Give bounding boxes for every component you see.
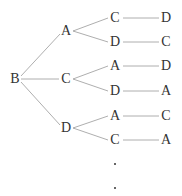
node-level3: A <box>161 133 171 147</box>
node-level2: C <box>110 133 119 147</box>
node-level2: D <box>110 35 120 49</box>
node-level3: D <box>161 11 171 25</box>
tree-edges <box>0 0 182 196</box>
node-level2: A <box>110 109 120 123</box>
node-level3: D <box>161 59 171 73</box>
continuation-dot <box>114 187 116 189</box>
continuation-dot <box>114 163 116 165</box>
node-level2: A <box>110 59 120 73</box>
node-level3: C <box>161 35 170 49</box>
node-level2: C <box>110 11 119 25</box>
node-level1: C <box>61 72 70 86</box>
node-level1: D <box>61 121 71 135</box>
node-level3: C <box>161 109 170 123</box>
node-level3: A <box>161 84 171 98</box>
node-root: B <box>10 72 19 86</box>
node-level2: D <box>110 84 120 98</box>
node-level1: A <box>61 24 71 38</box>
